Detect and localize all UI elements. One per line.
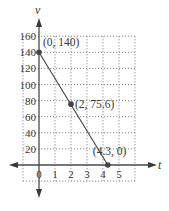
y-axis-title: v [35,3,41,17]
y-tick-label: 20 [25,143,37,155]
y-axis-up-arrow-icon [36,18,42,27]
x-tick-label: 1 [52,168,58,180]
data-point-label: (2, 75.6) [75,98,114,111]
y-tick-label: 120 [20,62,37,74]
x-tick-label: 2 [68,168,74,180]
data-points: (0, 140)(2, 75.6)(4.3, 0) [36,36,126,168]
y-tick-label: 100 [20,79,37,91]
data-point-label: (4.3, 0) [93,145,127,158]
y-tick-label: 80 [25,95,37,107]
data-point-label: (0, 140) [43,36,80,49]
y-tick-label: 40 [25,127,37,139]
x-tick-label: 5 [116,168,122,180]
line-chart: t v 01234520406080100120140160 (0, 140)(… [0,0,169,211]
x-tick-label: 3 [84,168,90,180]
y-tick-label: 60 [25,111,37,123]
x-axis-left-arrow-icon [9,162,18,168]
y-tick-label: 140 [20,46,37,58]
x-tick-label: 4 [100,168,106,180]
y-axis-down-arrow-icon [36,189,42,198]
x-axis-title: t [158,158,162,172]
data-point [68,101,74,107]
data-point [36,50,42,56]
y-tick-label: 160 [20,30,37,42]
data-point [105,162,111,168]
x-tick-label: 0 [36,168,42,180]
x-axis-right-arrow-icon [148,162,157,168]
